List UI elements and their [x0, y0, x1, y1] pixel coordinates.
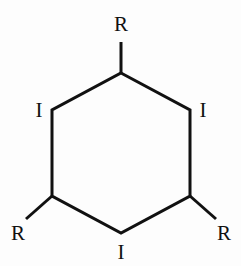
- bond-lower-left-substituent: [26, 196, 52, 219]
- structure-drawing-canvas: [0, 0, 241, 266]
- atom-label-lower-right-r: R: [217, 223, 231, 244]
- atom-label-top-r: R: [114, 14, 128, 35]
- atom-label-upper-right-i: I: [200, 100, 207, 121]
- chemical-structure-diagram: R I I R R I: [0, 0, 241, 266]
- atom-label-lower-left-r: R: [11, 223, 25, 244]
- six-membered-ring: [52, 73, 190, 233]
- atom-label-upper-left-i: I: [36, 100, 43, 121]
- bond-lower-right-substituent: [190, 196, 216, 219]
- atom-label-bottom-i: I: [118, 242, 125, 263]
